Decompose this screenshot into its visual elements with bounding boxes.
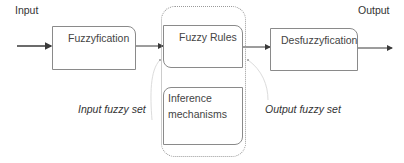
inference-mechanisms-block: Inference mechanisms bbox=[163, 87, 243, 145]
fuzzification-label: Fuzzyfication bbox=[68, 32, 129, 44]
inference-label-line2: mechanisms bbox=[168, 108, 227, 120]
input-label: Input bbox=[15, 4, 38, 16]
input-fuzzy-set-curve bbox=[151, 60, 160, 120]
output-fuzzy-set-label: Output fuzzy set bbox=[265, 103, 341, 115]
input-fuzzy-set-label: Input fuzzy set bbox=[78, 103, 146, 115]
fuzzification-block: Fuzzyfication bbox=[52, 26, 136, 70]
output-fuzzy-set-curve bbox=[248, 60, 268, 100]
fuzzy-rules-block: Fuzzy Rules bbox=[163, 25, 243, 68]
fuzzy-rules-label: Fuzzy Rules bbox=[179, 31, 237, 43]
defuzzification-block: Desfuzzyfication bbox=[270, 28, 358, 71]
defuzzification-label: Desfuzzyfication bbox=[281, 34, 357, 46]
output-label: Output bbox=[358, 4, 390, 16]
inference-label-line1: Inference bbox=[168, 92, 212, 104]
